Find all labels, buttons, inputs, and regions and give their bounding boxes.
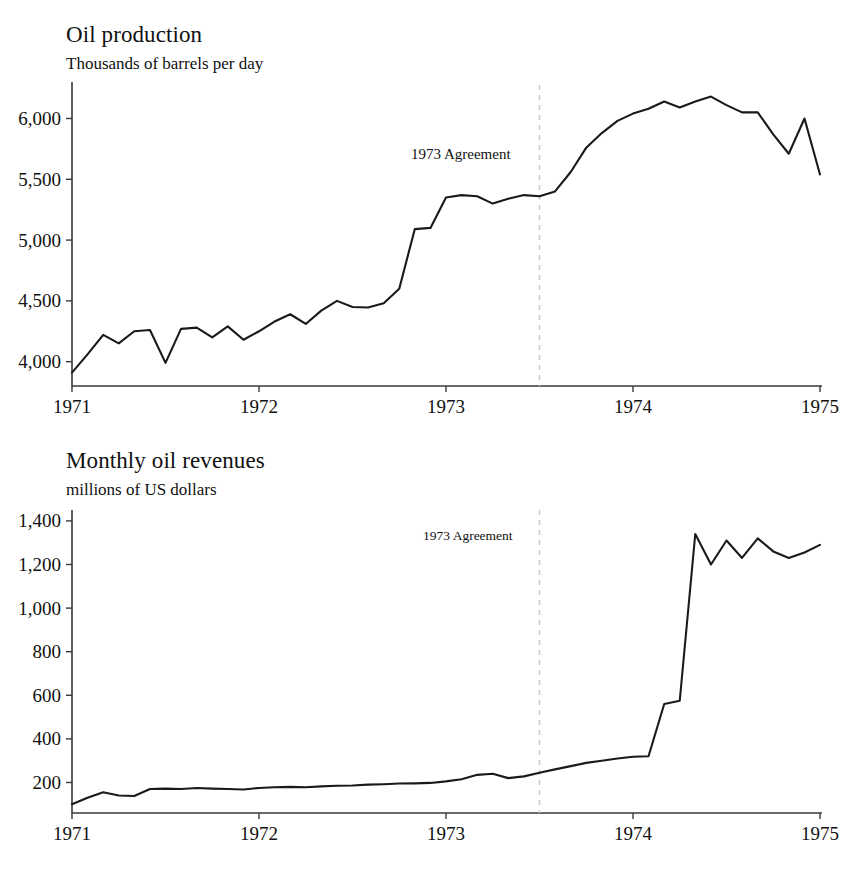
y-tick-label: 200 bbox=[33, 772, 62, 793]
y-tick-label: 4,000 bbox=[18, 351, 61, 372]
x-tick-label: 1971 bbox=[53, 823, 91, 844]
panel-oil-production: Oil production Thousands of barrels per … bbox=[0, 0, 842, 432]
x-tick-label: 1973 bbox=[427, 396, 465, 417]
y-tick-label: 800 bbox=[33, 641, 62, 662]
panel-oil-revenues: Monthly oil revenues millions of US doll… bbox=[0, 432, 842, 873]
oil-figure: Oil production Thousands of barrels per … bbox=[0, 0, 842, 873]
y-tick-label: 5,000 bbox=[18, 230, 61, 251]
y-tick-label: 400 bbox=[33, 728, 62, 749]
x-tick-label: 1974 bbox=[614, 396, 653, 417]
y-tick-label: 1,400 bbox=[18, 510, 61, 531]
y-tick-label: 1,000 bbox=[18, 598, 61, 619]
series-line-oil-production bbox=[72, 97, 820, 373]
x-tick-label: 1975 bbox=[801, 396, 839, 417]
y-tick-label: 600 bbox=[33, 685, 62, 706]
x-tick-label: 1974 bbox=[614, 823, 653, 844]
y-tick-label: 4,500 bbox=[18, 290, 61, 311]
y-tick-label: 6,000 bbox=[18, 108, 61, 129]
x-tick-label: 1973 bbox=[427, 823, 465, 844]
x-tick-label: 1971 bbox=[53, 396, 91, 417]
x-tick-label: 1972 bbox=[240, 823, 278, 844]
plot-area-production: 4,0004,5005,0005,5006,000197119721973197… bbox=[0, 0, 842, 441]
x-tick-label: 1975 bbox=[801, 823, 839, 844]
y-tick-label: 5,500 bbox=[18, 169, 61, 190]
series-line-monthly-oil-revenues bbox=[72, 534, 820, 804]
x-tick-label: 1972 bbox=[240, 396, 278, 417]
y-tick-label: 1,200 bbox=[18, 554, 61, 575]
plot-area-revenues: 2004006008001,0001,2001,4001971197219731… bbox=[0, 432, 842, 873]
